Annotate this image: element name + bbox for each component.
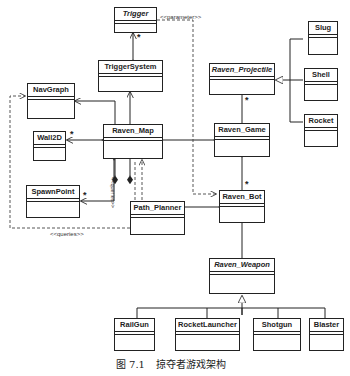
- class-name: Raven_Projectile: [210, 64, 274, 76]
- queries-stereotype-label-vertical: <<queries>>: [110, 177, 116, 208]
- class-name: Shell: [305, 69, 337, 81]
- class-divider: [254, 331, 300, 335]
- class-divider: [115, 20, 156, 24]
- class-divider: [310, 331, 343, 335]
- class-raven-weapon[interactable]: Raven_Weapon: [209, 258, 275, 294]
- class-divider: [215, 136, 269, 140]
- class-railgun[interactable]: RailGun: [114, 318, 155, 351]
- multiplicity-trigger: *: [137, 32, 141, 42]
- class-spawn-point[interactable]: SpawnPoint: [26, 185, 80, 218]
- class-divider: [28, 96, 74, 100]
- class-name: Raven_Game: [215, 124, 269, 136]
- class-divider: [210, 271, 274, 275]
- queries-stereotype-label-bottom: <<queries>>: [50, 231, 84, 237]
- class-name: RailGun: [115, 319, 154, 331]
- class-raven-projectile[interactable]: Raven_Projectile: [209, 63, 275, 95]
- class-divider: [176, 331, 239, 335]
- class-divider: [220, 203, 264, 207]
- class-name: Path_Planner: [131, 202, 184, 214]
- class-path-planner[interactable]: Path_Planner: [130, 201, 185, 235]
- figure-title: 掠夺者游戏架构: [156, 359, 226, 370]
- class-slug[interactable]: Slug: [308, 21, 338, 55]
- class-raven-bot[interactable]: Raven_Bot: [219, 190, 265, 223]
- multiplicity-bot: *: [245, 179, 249, 189]
- class-name: Wall2D: [34, 132, 65, 144]
- class-divider: [131, 214, 184, 218]
- multiplicity-projectile: *: [245, 95, 249, 105]
- multiplicity-spawnpoint: *: [83, 190, 87, 200]
- parameter-stereotype-label: <<parameter>>: [160, 14, 201, 20]
- parameter-dependency-edge: [157, 20, 216, 194]
- class-divider: [27, 198, 79, 202]
- class-name: Slug: [309, 22, 337, 34]
- class-wall2d[interactable]: Wall2D: [33, 131, 66, 161]
- class-raven-map[interactable]: Raven_Map: [103, 124, 163, 159]
- class-name: NavGraph: [28, 84, 74, 96]
- projectile-generalization-edges: [276, 39, 303, 122]
- class-raven-game[interactable]: Raven_Game: [214, 123, 270, 157]
- class-trigger[interactable]: Trigger: [114, 7, 157, 33]
- class-divider: [305, 127, 337, 131]
- class-name: SpawnPoint: [27, 186, 79, 198]
- class-name: Rocket: [305, 115, 337, 127]
- class-divider: [309, 34, 337, 38]
- class-name: Trigger: [115, 8, 156, 20]
- class-divider: [99, 73, 162, 77]
- class-name: Raven_Map: [104, 125, 162, 137]
- class-divider: [34, 144, 65, 148]
- class-shotgun[interactable]: Shotgun: [253, 318, 301, 351]
- class-divider: [305, 81, 337, 85]
- class-shell[interactable]: Shell: [304, 68, 338, 101]
- class-name: Blaster: [310, 319, 343, 331]
- class-rocket-launcher[interactable]: RocketLauncher: [175, 318, 240, 351]
- class-trigger-system[interactable]: TriggerSystem: [98, 60, 163, 92]
- class-divider: [210, 76, 274, 80]
- weapon-generalization-edges: [137, 296, 325, 318]
- queries-map-dependency-edge: [135, 160, 142, 200]
- class-name: Shotgun: [254, 319, 300, 331]
- class-nav-graph[interactable]: NavGraph: [27, 83, 75, 119]
- class-rocket[interactable]: Rocket: [304, 114, 338, 147]
- class-name: Raven_Bot: [220, 191, 264, 203]
- figure-caption: 图 7.1 掠夺者游戏架构: [0, 356, 350, 371]
- class-divider: [115, 331, 154, 335]
- class-divider: [104, 137, 162, 141]
- class-name: RocketLauncher: [176, 319, 239, 331]
- class-name: Raven_Weapon: [210, 259, 274, 271]
- multiplicity-wall2d: *: [70, 129, 74, 139]
- class-name: TriggerSystem: [99, 61, 162, 73]
- figure-number: 图 7.1: [116, 359, 145, 370]
- class-blaster[interactable]: Blaster: [309, 318, 344, 351]
